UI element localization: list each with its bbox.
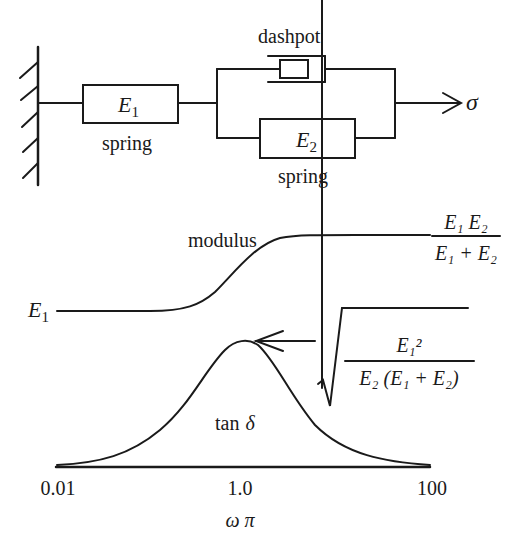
x-tick-1: 1.0 xyxy=(228,477,253,499)
fixed-wall xyxy=(20,47,38,185)
peak-numerator: E₁² xyxy=(395,334,422,356)
spring-e2-label: spring xyxy=(278,165,328,188)
peak-denominator: E₂ (E₁ + E₂) xyxy=(358,367,459,390)
x-tick-2: 100 xyxy=(417,477,447,499)
peak-arrow-icon xyxy=(256,331,315,351)
modulus-low-symbol: E1 xyxy=(27,297,49,325)
standard-linear-solid-diagram: E1 spring dashpot E2 spring σ modulus E1… xyxy=(0,0,523,546)
spring-e1-label: spring xyxy=(102,132,152,155)
square-root-sign xyxy=(318,0,468,406)
tan-delta-label: tanδ xyxy=(215,412,255,434)
stress-arrow-icon xyxy=(395,93,461,113)
spring-e1-symbol: E1 xyxy=(117,92,139,120)
stress-symbol: σ xyxy=(466,89,479,115)
dashpot-label: dashpot xyxy=(258,25,321,48)
x-axis-label: ω π xyxy=(225,509,255,531)
modulus-label: modulus xyxy=(188,229,257,251)
spring-e2-symbol: E2 xyxy=(295,127,317,155)
x-tick-0: 0.01 xyxy=(41,477,76,499)
modulus-high-denominator: E₁ + E₂ xyxy=(434,242,497,264)
modulus-high-numerator: E₁ E₂ xyxy=(443,211,487,233)
tan-delta-curve xyxy=(57,341,430,465)
